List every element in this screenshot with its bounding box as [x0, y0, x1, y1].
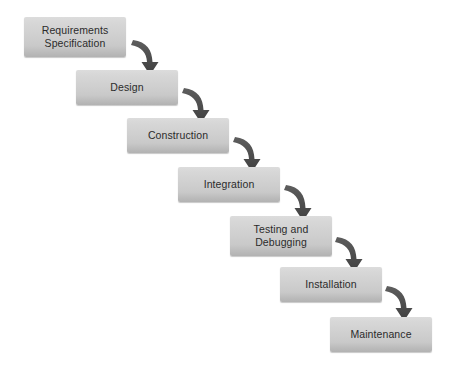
phase-label-testing-and-debugging: Testing and Debugging [250, 223, 313, 249]
waterfall-diagram-canvas: Requirements Specification Design Constr… [0, 0, 451, 372]
phase-box-testing-and-debugging[interactable]: Testing and Debugging [230, 216, 332, 256]
phase-label-maintenance: Maintenance [346, 328, 415, 341]
phase-box-construction[interactable]: Construction [127, 118, 229, 153]
phase-box-design[interactable]: Design [76, 70, 178, 105]
phase-box-installation[interactable]: Installation [280, 267, 382, 302]
arrow-installation-to-maintenance [385, 286, 413, 321]
phase-box-integration[interactable]: Integration [178, 167, 280, 202]
phase-label-construction: Construction [144, 129, 212, 142]
phase-label-design: Design [106, 81, 147, 94]
phase-box-maintenance[interactable]: Maintenance [330, 317, 432, 352]
phase-label-installation: Installation [301, 278, 360, 291]
phase-box-requirements-specification[interactable]: Requirements Specification [24, 17, 126, 57]
phase-label-requirements-specification: Requirements Specification [38, 24, 113, 50]
phase-label-integration: Integration [200, 178, 259, 191]
